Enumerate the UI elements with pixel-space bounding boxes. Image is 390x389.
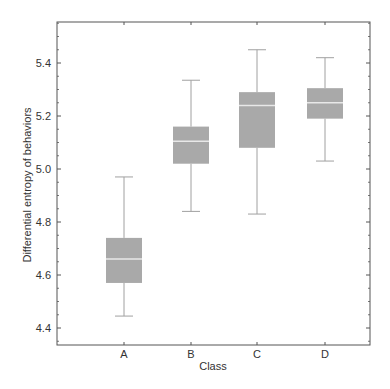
- iqr-box: [106, 238, 142, 283]
- x-tick-label: B: [187, 348, 194, 360]
- box-series: [106, 50, 343, 316]
- x-axis-ticks: ABCD: [120, 22, 329, 360]
- box-d: [307, 58, 343, 161]
- box-c: [239, 50, 275, 214]
- y-tick-label: 4.8: [36, 216, 51, 228]
- x-tick-label: D: [321, 348, 329, 360]
- y-tick-label: 4.4: [36, 322, 51, 334]
- y-tick-label: 4.6: [36, 269, 51, 281]
- y-axis-title: Differential entropy of behaviors: [21, 107, 33, 263]
- plot-frame: [57, 22, 370, 345]
- box-a: [106, 177, 142, 316]
- y-tick-label: 5.2: [36, 110, 51, 122]
- iqr-box: [173, 127, 209, 164]
- y-tick-label: 5.0: [36, 163, 51, 175]
- plot-border: [57, 22, 370, 345]
- box-b: [173, 80, 209, 211]
- y-tick-label: 5.4: [36, 57, 51, 69]
- x-tick-label: C: [253, 348, 261, 360]
- x-axis-title: Class: [199, 360, 227, 372]
- x-tick-label: A: [120, 348, 128, 360]
- y-axis-ticks: 4.44.64.85.05.25.4: [36, 23, 370, 341]
- box-plot-chart: 4.44.64.85.05.25.4 ABCD Class Differenti…: [0, 0, 390, 389]
- iqr-box: [239, 92, 275, 148]
